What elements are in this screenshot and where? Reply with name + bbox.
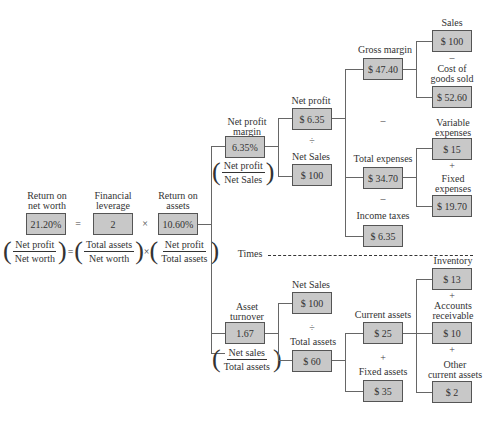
net-sales-label: Net Sales — [286, 152, 336, 162]
label-line-2: net worth — [22, 201, 72, 211]
minus-sign: – — [445, 52, 459, 63]
root-formula: ( Net profit Net worth ) = ( Total asset… — [3, 238, 219, 264]
financial-leverage-box: 2 — [93, 213, 133, 235]
fraction: Net sales Total assets — [221, 347, 273, 372]
fixed-expenses-box: $ 19.70 — [432, 195, 472, 217]
other-current-assets-box: $ 2 — [432, 381, 472, 403]
connector — [278, 176, 292, 177]
inventory-label: Inventory — [428, 256, 478, 266]
fraction-net-profit-total-assets: Net profit Total assets — [158, 239, 210, 264]
net-profit-label: Net profit — [286, 96, 336, 106]
numerator: Total assets — [84, 239, 134, 252]
net-sales-box: $ 100 — [292, 292, 332, 314]
label-line-2: goods sold — [424, 74, 480, 84]
connector — [332, 360, 346, 361]
asset-turnover-label: Asset turnover — [222, 302, 272, 322]
current-assets-label: Current assets — [350, 310, 416, 320]
income-taxes-label: Income taxes — [350, 211, 416, 221]
connector — [416, 148, 432, 149]
label-line-2: expenses — [428, 128, 478, 138]
denominator: Total assets — [159, 252, 209, 264]
plus-sign: + — [445, 160, 459, 171]
gross-margin-box: $ 47.40 — [363, 58, 403, 80]
fraction-net-profit-net-worth: Net profit Net worth — [12, 239, 58, 264]
minus-sign: – — [376, 193, 390, 204]
connector — [345, 69, 363, 70]
connector — [345, 333, 363, 334]
connector — [416, 206, 432, 207]
return-on-net-worth-label: Return on net worth — [22, 191, 72, 211]
net-sales-box: $ 100 — [292, 164, 332, 186]
cogs-label: Cost of goods sold — [424, 64, 480, 84]
accounts-receivable-label: Accounts receivable — [426, 301, 480, 321]
numerator: Net profit — [13, 239, 56, 252]
connector — [265, 146, 279, 147]
net-sales-label: Net Sales — [286, 280, 336, 290]
current-assets-box: $ 25 — [363, 322, 403, 344]
numerator: Net profit — [163, 239, 206, 252]
connector — [416, 97, 432, 98]
connector — [345, 69, 346, 237]
paren-open: ( — [212, 346, 221, 372]
denominator: Total assets — [222, 360, 272, 372]
return-on-assets-label: Return on assets — [153, 191, 203, 211]
variable-expenses-box: $ 15 — [432, 138, 472, 160]
connector — [403, 69, 417, 70]
equals-sign: = — [70, 218, 86, 229]
paren-close: ) — [135, 238, 144, 264]
paren-open: ( — [212, 159, 221, 185]
connector — [416, 279, 417, 393]
minus-sign: – — [376, 115, 390, 126]
net-profit-margin-box: 6.35% — [225, 136, 265, 158]
paren-open: ( — [3, 238, 12, 264]
financial-leverage-label: Financial leverage — [88, 191, 138, 211]
connector — [198, 224, 212, 225]
denominator: Net worth — [13, 252, 57, 264]
income-taxes-box: $ 6.35 — [363, 225, 403, 247]
total-assets-box: $ 60 — [292, 350, 332, 372]
connector — [211, 333, 225, 334]
gross-margin-label: Gross margin — [355, 45, 415, 55]
equals-sign: = — [68, 246, 74, 257]
connector — [211, 146, 225, 147]
cogs-box: $ 52.60 — [432, 86, 472, 108]
connector — [345, 236, 363, 237]
connector — [278, 118, 279, 176]
divide-sign: ÷ — [305, 135, 319, 146]
connector — [278, 303, 279, 361]
connector — [345, 391, 363, 392]
total-assets-label: Total assets — [286, 337, 340, 347]
fixed-assets-box: $ 35 — [363, 380, 403, 402]
connector — [265, 333, 279, 334]
connector — [278, 118, 292, 119]
connector — [278, 303, 292, 304]
connector — [416, 279, 432, 280]
numerator: Net sales — [227, 347, 267, 360]
times-sign: × — [138, 218, 152, 229]
fraction: Net profit Net Sales — [221, 160, 266, 185]
plus-sign: + — [445, 344, 459, 355]
asset-turnover-formula: ( Net sales Total assets ) — [212, 346, 282, 372]
net-profit-margin-formula: ( Net profit Net Sales ) — [212, 159, 275, 185]
fraction-total-assets-net-worth: Total assets Net worth — [83, 239, 135, 264]
connector — [345, 333, 346, 392]
variable-expenses-label: Variable expenses — [428, 118, 478, 138]
times-label: Times — [235, 249, 265, 259]
label-line-2: leverage — [88, 201, 138, 211]
connector — [416, 41, 432, 42]
net-profit-box: $ 6.35 — [292, 108, 332, 130]
denominator: Net worth — [87, 252, 131, 264]
label-line-2: assets — [153, 201, 203, 211]
connector — [332, 118, 346, 119]
fixed-expenses-label: Fixed expenses — [428, 174, 478, 194]
numerator: Net profit — [222, 160, 265, 173]
return-on-net-worth-box: 21.20% — [26, 213, 66, 235]
label-line-2: expenses — [428, 184, 478, 194]
label-line-2: current assets — [420, 370, 490, 380]
connector — [403, 177, 417, 178]
total-expenses-label: Total expenses — [348, 154, 418, 164]
connector — [403, 333, 432, 334]
plus-sign: + — [376, 352, 390, 363]
connector — [211, 333, 212, 354]
label-line-2: turnover — [222, 312, 272, 322]
